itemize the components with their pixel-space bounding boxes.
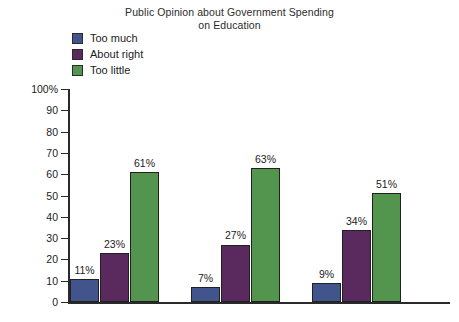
bar-value-label: 63% <box>245 154 286 165</box>
bar-too-much-group-1[interactable] <box>70 279 99 302</box>
bar-about-right-group-2[interactable] <box>221 245 250 303</box>
bar-value-label: 7% <box>185 273 226 284</box>
bar-value-label: 11% <box>64 265 105 276</box>
bar-too-much-group-3[interactable] <box>312 283 341 302</box>
bar-value-label: 9% <box>306 269 347 280</box>
bar-too-little-group-2[interactable] <box>251 168 280 302</box>
y-axis-tick <box>61 302 68 303</box>
bar-about-right-group-3[interactable] <box>342 230 371 302</box>
bar-too-much-group-2[interactable] <box>191 287 220 302</box>
bars-layer: 11%23%61%7%27%63%9%34%51% <box>0 89 459 302</box>
bar-value-label: 61% <box>124 158 165 169</box>
plot-area: 100%9080706050403020100 11%23%61%7%27%63… <box>0 0 459 322</box>
bar-too-little-group-3[interactable] <box>372 193 401 302</box>
bar-value-label: 23% <box>94 239 135 250</box>
bar-value-label: 34% <box>336 216 377 227</box>
bar-value-label: 27% <box>215 230 256 241</box>
bar-too-little-group-1[interactable] <box>130 172 159 302</box>
bar-value-label: 51% <box>366 179 407 190</box>
bar-about-right-group-1[interactable] <box>100 253 129 302</box>
x-axis-line <box>68 302 450 304</box>
